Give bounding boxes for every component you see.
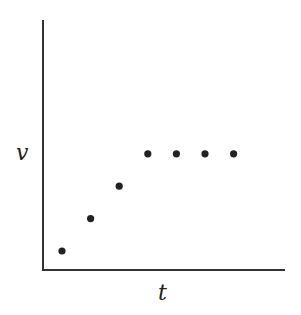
- data-points: [58, 150, 237, 254]
- data-point: [230, 150, 237, 157]
- data-point: [201, 150, 208, 157]
- data-point: [144, 150, 151, 157]
- y-axis-label: v: [16, 140, 29, 165]
- data-point: [173, 150, 180, 157]
- data-point: [116, 183, 123, 190]
- data-point: [58, 247, 65, 254]
- chart: v t: [0, 0, 301, 315]
- x-axis-label: t: [158, 280, 167, 305]
- data-point: [87, 215, 94, 222]
